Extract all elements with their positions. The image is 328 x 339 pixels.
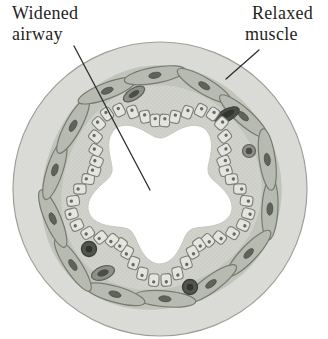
label-relaxed-muscle-line2: muscle <box>245 24 313 45</box>
epithelial-cell-body <box>148 274 159 287</box>
epithelial-cell-body <box>240 195 254 207</box>
gland <box>82 242 97 257</box>
epithelial-cell <box>66 195 80 207</box>
epithelial-cell-body <box>136 266 149 280</box>
muscle-cell-nucleus <box>267 203 273 216</box>
epithelial-cell-body <box>225 173 239 185</box>
gland-core <box>86 246 93 253</box>
epithelial-cell-body <box>161 273 172 286</box>
epithelial-cell-body <box>159 114 170 127</box>
epithelial-cell-nucleus <box>76 187 79 190</box>
epithelial-cell <box>225 173 239 185</box>
epithelial-cell <box>171 266 184 280</box>
gland <box>183 280 198 295</box>
label-widened-airway-line2: airway <box>12 24 78 45</box>
gland-core <box>187 284 194 291</box>
label-widened-airway-line1: Widened <box>12 3 78 24</box>
epithelial-cell <box>234 184 246 194</box>
figure-airway-cross-section: Widened airway Relaxed muscle <box>0 0 328 339</box>
epithelial-cell-body <box>171 266 184 280</box>
gland <box>243 145 256 158</box>
label-relaxed-muscle: Relaxed muscle <box>245 3 313 45</box>
epithelial-cell <box>169 110 182 124</box>
epithelial-cell <box>159 114 170 127</box>
epithelial-cell <box>136 266 149 280</box>
gland-core <box>246 148 253 155</box>
label-widened-airway: Widened airway <box>12 3 78 45</box>
epithelial-cell-body <box>74 184 86 194</box>
epithelial-cell <box>240 195 254 207</box>
epithelial-cell <box>139 110 152 124</box>
epithelial-cell <box>74 184 86 194</box>
label-relaxed-muscle-line1: Relaxed <box>252 3 313 24</box>
epithelial-cell <box>148 274 159 287</box>
epithelial-cell-body <box>169 110 182 124</box>
epithelial-cell <box>161 273 172 286</box>
epithelial-cell-nucleus <box>240 187 243 190</box>
airway-cross-section-diagram <box>0 0 328 339</box>
epithelial-cell-body <box>66 195 80 207</box>
epithelial-cell-body <box>234 184 246 194</box>
epithelial-cell-body <box>139 110 152 124</box>
